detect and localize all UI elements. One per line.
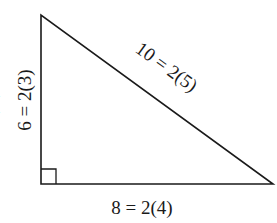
horizontal-leg-label: 8 = 2(4) <box>111 197 172 219</box>
right-triangle-diagram: ( 6 = 2(3) 8 = 2(4) 10 = 2(5) <box>0 0 277 223</box>
triangle-shape <box>41 15 273 184</box>
vertical-leg-label: 6 = 2(3) <box>14 69 36 130</box>
right-angle-marker <box>41 169 56 184</box>
